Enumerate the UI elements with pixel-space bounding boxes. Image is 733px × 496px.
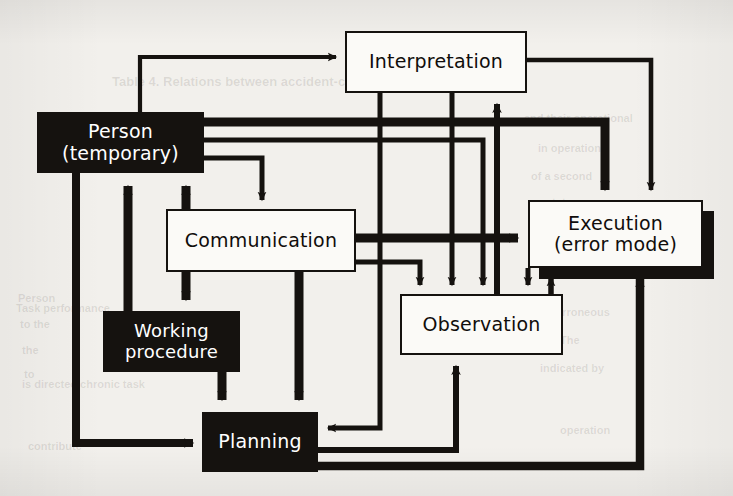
node-working-procedure-label: Working procedure [125, 321, 218, 361]
node-observation[interactable]: Observation [400, 294, 563, 355]
node-interpretation[interactable]: Interpretation [345, 31, 527, 93]
figure-canvas: Table 4. Relations between accident-caus… [0, 0, 733, 496]
node-observation-label: Observation [423, 314, 541, 335]
node-planning[interactable]: Planning [202, 412, 318, 472]
node-execution-label: Execution (error mode) [554, 213, 677, 256]
edge-planning-to-observation [318, 366, 456, 450]
node-working-procedure[interactable]: Working procedure [103, 311, 240, 372]
node-person[interactable]: Person (temporary) [37, 112, 204, 173]
edge-person-to-interpretation [140, 57, 336, 112]
flow-diagram: Person (temporary) Interpretation Commun… [0, 0, 733, 496]
node-planning-label: Planning [218, 431, 301, 452]
node-person-label: Person (temporary) [62, 121, 179, 164]
edge-person-to-communication [204, 158, 262, 200]
node-interpretation-label: Interpretation [369, 51, 503, 72]
node-communication-label: Communication [185, 230, 337, 251]
edge-communication-to-observation [356, 262, 420, 285]
node-execution[interactable]: Execution (error mode) [528, 200, 703, 268]
node-communication[interactable]: Communication [166, 209, 356, 272]
